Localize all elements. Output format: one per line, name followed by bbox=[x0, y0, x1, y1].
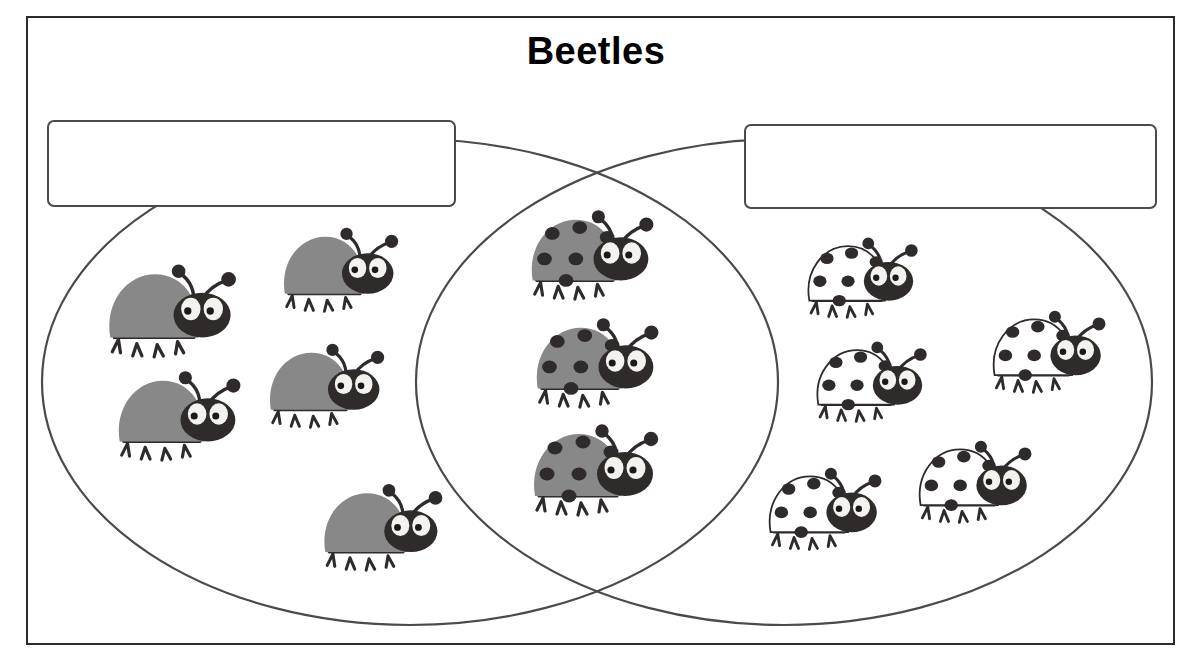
beetle-spot bbox=[944, 499, 958, 511]
beetle-left-only-icon bbox=[106, 365, 243, 463]
beetle-spot bbox=[775, 507, 789, 519]
left-set-label-box[interactable] bbox=[47, 120, 456, 207]
beetle-legs bbox=[327, 552, 403, 570]
beetle-spot bbox=[829, 357, 842, 368]
beetle-left-only-icon bbox=[258, 338, 387, 430]
beetle-head bbox=[593, 237, 648, 280]
beetle-legs bbox=[996, 375, 1068, 392]
beetle-spot bbox=[550, 335, 565, 348]
beetle-intersection-icon bbox=[524, 312, 661, 410]
beetle-head bbox=[976, 466, 1026, 506]
beetle-spot bbox=[807, 478, 821, 490]
beetle-spot bbox=[545, 227, 560, 240]
beetle-spot bbox=[537, 253, 552, 266]
beetle-left-only-icon bbox=[96, 258, 239, 360]
beetle-legs bbox=[535, 280, 613, 299]
beetle-spot bbox=[850, 380, 863, 391]
beetle-spot bbox=[932, 456, 946, 468]
beetle-spot bbox=[1018, 369, 1031, 381]
beetle-legs bbox=[772, 532, 844, 549]
beetle-head bbox=[873, 366, 922, 405]
beetle-head bbox=[864, 262, 913, 301]
beetle-head bbox=[180, 398, 235, 441]
beetle-left-only-icon bbox=[272, 222, 401, 314]
beetle-spot bbox=[803, 507, 817, 519]
beetle-legs bbox=[287, 294, 361, 311]
beetle-spot bbox=[833, 295, 846, 306]
beetle-right-only-icon bbox=[908, 435, 1034, 525]
beetle-legs bbox=[811, 301, 881, 318]
beetle-spot bbox=[820, 253, 833, 264]
beetle-head bbox=[598, 345, 653, 388]
beetle-spot bbox=[782, 483, 796, 495]
beetle-spot bbox=[577, 329, 592, 342]
beetle-spot bbox=[540, 468, 555, 481]
beetle-spot bbox=[1006, 326, 1020, 338]
beetle-spot bbox=[813, 276, 826, 287]
beetle-spot bbox=[564, 382, 579, 395]
beetle-spot bbox=[822, 380, 835, 391]
beetle-head bbox=[174, 293, 231, 338]
right-set-label-box[interactable] bbox=[744, 124, 1157, 209]
beetle-spot bbox=[542, 361, 557, 374]
beetle-spot bbox=[568, 253, 583, 266]
beetle-head bbox=[826, 493, 876, 533]
beetle-legs bbox=[820, 405, 890, 422]
worksheet-page: Beetles bbox=[0, 0, 1192, 662]
beetle-spot bbox=[1031, 321, 1045, 333]
beetle-legs bbox=[273, 410, 347, 427]
beetle-spot bbox=[845, 247, 858, 258]
beetle-spot bbox=[559, 274, 574, 287]
beetle-spot bbox=[953, 480, 967, 492]
beetle-spot bbox=[841, 276, 854, 287]
beetle-intersection-icon bbox=[519, 204, 656, 302]
beetle-spot bbox=[842, 399, 855, 410]
beetle-spot bbox=[573, 361, 588, 374]
beetle-spot bbox=[957, 451, 971, 463]
beetle-spot bbox=[1027, 350, 1041, 362]
beetle-legs bbox=[540, 388, 618, 407]
beetle-legs bbox=[922, 505, 994, 522]
beetle-spot bbox=[548, 442, 563, 455]
beetle-legs bbox=[537, 496, 617, 515]
beetle-right-only-icon bbox=[806, 336, 929, 424]
beetle-head bbox=[1050, 336, 1100, 376]
beetle-spot bbox=[562, 490, 577, 503]
beetle-head bbox=[328, 369, 380, 409]
beetle-right-only-icon bbox=[797, 232, 920, 320]
beetle-intersection-icon bbox=[521, 418, 661, 518]
beetle-head bbox=[597, 452, 653, 496]
beetle-spot bbox=[576, 436, 591, 449]
beetle-right-only-icon bbox=[982, 305, 1108, 395]
beetle-head bbox=[342, 253, 394, 293]
beetle-right-only-icon bbox=[758, 462, 884, 552]
beetle-left-only-icon bbox=[312, 478, 445, 573]
beetle-spot bbox=[572, 221, 587, 234]
beetle-spot bbox=[572, 468, 587, 481]
beetle-spot bbox=[854, 351, 867, 362]
beetle-spot bbox=[999, 350, 1013, 362]
beetle-spot bbox=[794, 526, 808, 538]
beetle-spot bbox=[925, 480, 939, 492]
beetle-head bbox=[384, 510, 437, 552]
beetle-legs bbox=[112, 338, 194, 357]
beetle-legs bbox=[122, 441, 200, 460]
